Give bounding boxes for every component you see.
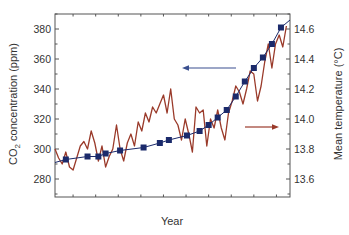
co2-marker <box>197 128 203 134</box>
co2-marker <box>184 133 190 139</box>
left-arrow-icon <box>182 65 189 70</box>
co2-marker <box>251 65 257 71</box>
right-arrow-icon <box>272 124 279 129</box>
left-tick-label: 320 <box>33 113 51 125</box>
co2-fit-line <box>55 20 290 163</box>
right-axis-title: Mean temperature (°C) <box>332 48 344 161</box>
left-axis-title: CO2 concentration (ppm) <box>7 43 22 165</box>
co2-marker <box>260 55 266 61</box>
co2-marker <box>242 79 248 85</box>
right-tick-label: 13.8 <box>294 143 315 155</box>
co2-series <box>55 20 290 163</box>
left-tick-label: 300 <box>33 143 51 155</box>
axis-indicator-arrows <box>182 65 279 129</box>
co2-marker <box>85 154 91 160</box>
co2-marker <box>103 151 109 157</box>
right-tick-label: 14.4 <box>294 53 315 65</box>
co2-marker <box>157 140 163 146</box>
chart-figure: 280300320340360380 13.613.814.014.214.41… <box>0 0 349 235</box>
left-tick-label: 280 <box>33 173 51 185</box>
co2-marker <box>117 148 123 154</box>
left-tick-label: 380 <box>33 23 51 35</box>
left-tick-label: 340 <box>33 83 51 95</box>
right-tick-label: 13.6 <box>294 173 315 185</box>
co2-marker <box>278 25 284 31</box>
co2-marker <box>141 145 147 151</box>
right-tick-label: 14.2 <box>294 83 315 95</box>
right-tick-label: 14.0 <box>294 113 315 125</box>
temperature-line <box>55 26 286 170</box>
co2-marker <box>269 41 275 47</box>
temperature-series <box>55 26 286 170</box>
co2-marker <box>166 137 172 143</box>
right-tick-label: 14.6 <box>294 23 315 35</box>
co2-marker <box>95 154 101 160</box>
co2-marker <box>215 115 221 121</box>
co2-marker <box>233 94 239 100</box>
co2-marker <box>224 107 230 113</box>
co2-marker <box>63 157 69 163</box>
left-tick-label: 360 <box>33 53 51 65</box>
x-axis-ticks <box>73 14 276 197</box>
co2-marker <box>206 122 212 128</box>
x-axis-title: Year <box>161 215 184 227</box>
